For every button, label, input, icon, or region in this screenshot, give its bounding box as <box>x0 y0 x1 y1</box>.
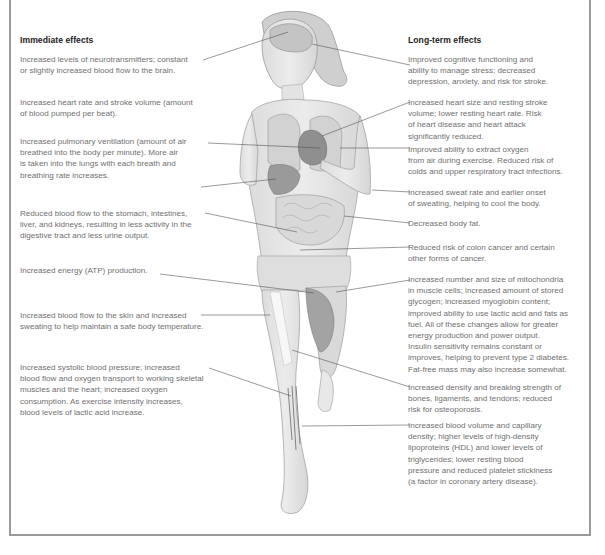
long-term-effect-blood-volume: Increased blood volume and capillary den… <box>408 420 552 487</box>
long-term-effect-bones: Increased density and breaking strength … <box>408 382 561 416</box>
long-term-effect-cognitive: Improved cognitive functioning and abili… <box>408 54 548 88</box>
lungs-shape <box>268 114 300 171</box>
immediate-effect-skin: Increased blood flow to the skin and inc… <box>20 310 204 332</box>
long-term-effect-sweat: Increased sweat rate and earlier onset o… <box>408 187 546 209</box>
long-term-effect-heart: Increased heart size and resting stroke … <box>408 97 547 142</box>
long-term-effect-body-fat: Decreased body fat. <box>408 218 480 229</box>
immediate-effect-brain: Increased levels of neurotransmitters; c… <box>20 54 188 76</box>
immediate-effect-blood-pressure: Increased systolic blood pressure; incre… <box>20 362 204 418</box>
long-term-effect-cancer: Reduced risk of colon cancer and certain… <box>408 242 555 264</box>
immediate-effect-heart: Increased heart rate and stroke volume (… <box>20 97 193 119</box>
long-term-effect-oxygen: Improved ability to extract oxygen from … <box>408 144 563 178</box>
immediate-effect-lungs: Increased pulmonary ventilation (amount … <box>20 136 186 181</box>
immediate-effect-digestion: Reduced blood flow to the stomach, intes… <box>20 208 191 242</box>
immediate-effects-title: Immediate effects <box>20 35 93 45</box>
long-term-effects-title: Long-term effects <box>408 35 481 45</box>
immediate-effect-atp: Increased energy (ATP) production. <box>20 265 148 276</box>
long-term-effect-muscle: Increased number and size of mitochondri… <box>408 274 569 375</box>
